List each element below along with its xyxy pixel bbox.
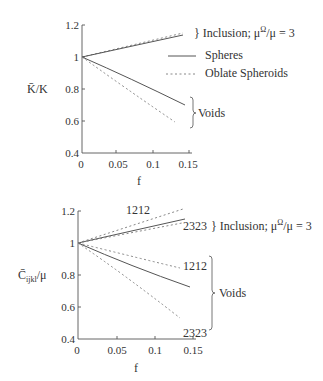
figure: 1.2 1 0.8 0.6 0.4 0 0.05 0.1 0.15 K̄/K f… (0, 0, 323, 381)
voids-spheres-curve (82, 57, 185, 105)
y-tick-label: 0.8 (65, 83, 79, 95)
voids-2323-label: 2323 (183, 326, 207, 340)
x-tick-label: 0 (74, 344, 80, 356)
plot-2: 1.2 1 0.8 0.6 0.4 0 0.05 0.1 0.15 C̄ijkl… (18, 203, 312, 375)
y-tick-label: 1 (70, 237, 76, 249)
x-tick-label: 0.1 (148, 344, 162, 356)
x-axis-label: f (137, 174, 141, 188)
y-tick-label: 0.6 (61, 301, 75, 313)
inclusion-spheres-curve (78, 219, 185, 243)
x-axis-label: f (134, 361, 138, 375)
inclusion-annotation: } Inclusion; μΩ/μ = 3 (194, 25, 295, 40)
voids-annotation: Voids (219, 286, 246, 300)
x-tick-label: 0.05 (107, 344, 127, 356)
voids-oblate-curve (82, 57, 175, 122)
inclusion-spheres-curve (82, 35, 183, 57)
y-tick-label: 0.8 (61, 269, 75, 281)
voids-brace (209, 256, 215, 330)
y-tick-label: 1 (74, 51, 80, 63)
voids-brace (190, 97, 196, 128)
inclusion-1212-label: 1212 (126, 203, 150, 217)
voids-annotation: Voids (198, 106, 225, 120)
legend-oblate-label: Oblate Spheroids (205, 66, 288, 80)
y-axis-label: C̄ijkl/μ (18, 268, 46, 284)
x-tick-label: 0.15 (183, 344, 203, 356)
plot-1: 1.2 1 0.8 0.6 0.4 0 0.05 0.1 0.15 K̄/K f… (27, 19, 295, 188)
inclusion-2323-label: 2323 (183, 219, 207, 233)
y-tick-label: 0.6 (65, 115, 79, 127)
voids-spheres-curve (78, 243, 190, 287)
legend-spheres-label: Spheres (205, 48, 243, 62)
voids-2323-curve (78, 243, 180, 318)
x-tick-label: 0.1 (146, 158, 160, 170)
y-tick-label: 1.2 (61, 205, 75, 217)
y-tick-label: 1.2 (65, 19, 79, 31)
x-tick-label: 0 (78, 158, 84, 170)
x-tick-label: 0.05 (108, 158, 128, 170)
voids-1212-label: 1212 (183, 259, 207, 273)
inclusion-annotation: } Inclusion; μΩ/μ = 3 (211, 218, 312, 233)
x-tick-label: 0.15 (178, 158, 198, 170)
y-axis-label: K̄/K (27, 82, 48, 96)
